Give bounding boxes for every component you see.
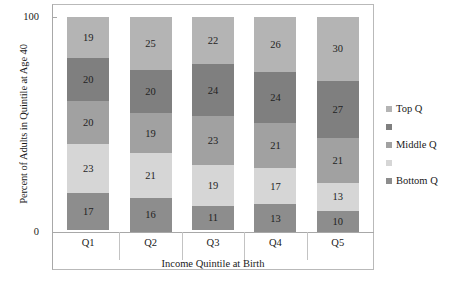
bar-segment: 16 xyxy=(130,198,172,232)
bar-segment-value: 20 xyxy=(83,117,94,128)
bar-segment-value: 20 xyxy=(145,86,156,97)
bar-segment: 24 xyxy=(192,64,234,116)
x-axis-line xyxy=(52,232,374,233)
x-axis-tick-mark xyxy=(182,232,183,260)
bar-stack: 2624211713 xyxy=(254,17,296,232)
bar-segment: 25 xyxy=(130,17,172,70)
bar-group-q2: 2520192116 xyxy=(130,17,172,232)
chart-figure: Percent of Adults in Quintile at Age 40 … xyxy=(0,0,458,288)
bar-segment-value: 26 xyxy=(270,39,281,50)
bar-segment: 21 xyxy=(317,138,359,183)
bar-segment-value: 19 xyxy=(208,180,219,191)
bar-segment-value: 13 xyxy=(333,191,344,202)
bar-segment-value: 23 xyxy=(83,163,94,174)
bar-segment: 19 xyxy=(67,17,109,58)
bar-segment-value: 13 xyxy=(270,213,281,224)
bar-segment-value: 16 xyxy=(145,209,156,220)
bar-segment-value: 20 xyxy=(83,74,94,85)
bar-segment-value: 23 xyxy=(208,135,219,146)
y-axis-tick-label-0: 0 xyxy=(5,227,39,237)
x-axis-title: Income Quintile at Birth xyxy=(52,257,374,270)
bar-stack: 2224231911 xyxy=(192,17,234,232)
bar-group-q4: 2624211713 xyxy=(254,17,296,232)
bar-group-q5: 3027211310 xyxy=(317,17,359,232)
bar-segment: 10 xyxy=(317,211,359,232)
x-axis-tick-label-q5: Q5 xyxy=(307,237,369,249)
x-axis-tick-mark xyxy=(119,232,120,260)
bar-segment-value: 22 xyxy=(208,35,219,46)
chart-legend: Top QMiddle QBottom Q xyxy=(386,100,458,190)
bar-segment: 30 xyxy=(317,17,359,81)
bar-segment: 26 xyxy=(254,17,296,72)
bar-group-q1: 1920202317 xyxy=(67,17,109,232)
legend-label: Middle Q xyxy=(396,139,437,151)
bar-segment-value: 24 xyxy=(270,92,281,103)
legend-label: Top Q xyxy=(396,103,422,115)
bar-segment-value: 10 xyxy=(333,216,344,227)
legend-item[interactable]: Bottom Q xyxy=(386,172,458,190)
bar-segment: 13 xyxy=(317,183,359,211)
bar-segment-value: 17 xyxy=(83,206,94,217)
bar-segment: 20 xyxy=(67,101,109,144)
bar-group-q3: 2224231911 xyxy=(192,17,234,232)
legend-item[interactable] xyxy=(386,154,458,172)
bar-segment: 20 xyxy=(130,70,172,113)
bar-segment-value: 19 xyxy=(83,32,94,43)
bar-segment: 13 xyxy=(254,204,296,232)
bar-segment: 22 xyxy=(192,17,234,64)
bar-segment-value: 19 xyxy=(145,128,156,139)
bar-segment-value: 21 xyxy=(333,155,344,166)
legend-item[interactable]: Middle Q xyxy=(386,136,458,154)
bar-segment-value: 27 xyxy=(333,104,344,115)
plot-area: 1920202317252019211622242319112624211713… xyxy=(57,17,369,232)
legend-label: Bottom Q xyxy=(396,175,438,187)
bar-segment-value: 30 xyxy=(333,43,344,54)
bar-stack: 3027211310 xyxy=(317,17,359,232)
legend-swatch-icon xyxy=(386,106,392,112)
x-axis-tick-label-q4: Q4 xyxy=(244,237,306,249)
bar-segment-value: 21 xyxy=(270,140,281,151)
legend-swatch-icon xyxy=(386,160,392,166)
bar-segment-value: 24 xyxy=(208,85,219,96)
bar-segment: 17 xyxy=(254,168,296,204)
bar-segment-value: 17 xyxy=(270,181,281,192)
x-axis-tick-mark xyxy=(244,232,245,260)
bar-segment-value: 11 xyxy=(208,212,218,223)
bar-stack: 1920202317 xyxy=(67,17,109,232)
bar-stack: 2520192116 xyxy=(130,17,172,232)
bar-segment: 21 xyxy=(130,153,172,198)
bar-segment: 24 xyxy=(254,72,296,123)
legend-swatch-icon xyxy=(386,178,392,184)
bar-segment: 20 xyxy=(67,58,109,101)
legend-item[interactable] xyxy=(386,118,458,136)
x-axis-tick-label-q3: Q3 xyxy=(182,237,244,249)
legend-swatch-icon xyxy=(386,142,392,148)
bar-segment: 23 xyxy=(67,144,109,193)
legend-item[interactable]: Top Q xyxy=(386,100,458,118)
x-axis-tick-label-q2: Q2 xyxy=(119,237,181,249)
bar-segment: 11 xyxy=(192,206,234,230)
x-axis-tick-mark xyxy=(307,232,308,260)
bar-segment: 27 xyxy=(317,81,359,138)
bar-segment-value: 21 xyxy=(145,170,156,181)
y-axis-tick-label-100: 100 xyxy=(5,12,39,22)
legend-swatch-icon xyxy=(386,124,392,130)
bar-segment-value: 25 xyxy=(145,38,156,49)
bar-segment: 21 xyxy=(254,123,296,168)
x-axis-tick-label-q1: Q1 xyxy=(57,237,119,249)
bar-segment: 23 xyxy=(192,116,234,165)
y-axis-title: Percent of Adults in Quintile at Age 40 xyxy=(16,8,32,240)
bar-segment: 19 xyxy=(192,165,234,206)
bar-segment: 19 xyxy=(130,113,172,153)
bar-segment: 17 xyxy=(67,193,109,230)
